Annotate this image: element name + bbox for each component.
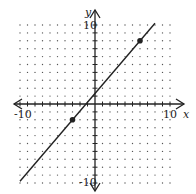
y-min-label: -10: [79, 176, 97, 189]
x-axis: [14, 99, 184, 109]
y-max-label: 10: [83, 19, 97, 32]
x-min-label: -10: [14, 108, 32, 121]
x-axis-label: x: [183, 108, 190, 121]
data-line: [20, 23, 155, 181]
data-point: [70, 117, 76, 123]
y-axis: [90, 10, 100, 191]
coordinate-plane: -10 10 x 10 y -10: [0, 0, 196, 194]
x-max-label: 10: [163, 108, 177, 121]
y-axis-label: y: [84, 6, 92, 19]
data-point: [137, 38, 143, 44]
